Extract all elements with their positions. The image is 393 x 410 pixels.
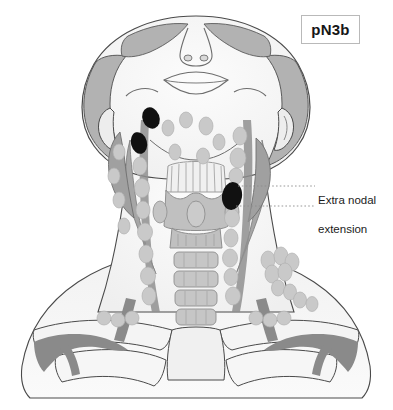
lymph-node [278,263,292,281]
lymph-node [224,229,238,247]
lymph-node [133,157,147,175]
thyroid-lobe-left [153,201,167,223]
lymph-node [169,144,181,160]
lymph-node [141,267,156,285]
lymph-node [125,311,139,325]
lymph-node [226,287,241,305]
lymph-node [113,144,125,160]
stage-label-text: pN3b [311,22,349,37]
lymph-node [135,179,150,198]
lymph-node [162,120,174,136]
lymph-node [263,313,277,327]
lymph-node [138,223,153,241]
lymph-node [213,134,225,150]
lymph-node [272,280,285,296]
lymph-node [249,311,263,325]
sternum [167,327,225,380]
lymph-node [118,218,130,234]
lymph-node [113,192,125,208]
nostril-left [184,55,192,61]
lymph-node [136,201,150,219]
extra-nodal-extension-label: Extra nodal extension [318,178,393,236]
callout-line-1: Extra nodal [318,194,376,206]
lymph-node [97,311,111,325]
lymph-node [306,297,318,312]
nostril-right [200,55,208,61]
lymph-node [225,209,240,227]
stage-label-box: pN3b [301,15,360,44]
lymph-node [233,127,247,145]
figure-root: pN3b Extra nodal extension [0,0,393,410]
lymph-node [230,148,246,168]
lymph-node [180,112,193,128]
thyrohyoid-membrane [166,162,226,193]
lymph-node [108,168,120,184]
lymph-node [224,269,238,286]
thyroid-gland-lobe [187,201,205,227]
lymph-node [197,148,210,164]
lymph-node [111,313,125,327]
callout-line-2: extension [318,223,367,235]
lymph-node [142,287,156,305]
lymph-node [277,311,291,325]
lymph-node [229,168,243,184]
lymph-node [139,245,153,263]
lymph-node [223,249,238,267]
lymph-node [199,117,213,135]
lymph-node [294,292,307,308]
